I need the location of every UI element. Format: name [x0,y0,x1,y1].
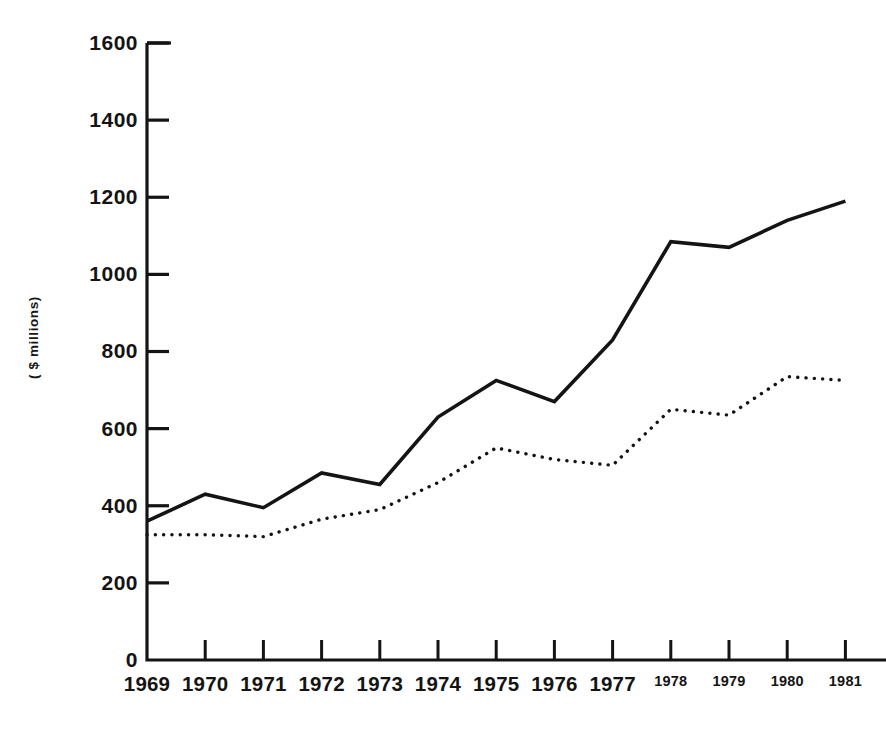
x-tick-label: 1979 [712,674,745,689]
x-tick-label: 1980 [771,674,804,689]
x-tick-label: 1976 [531,674,577,695]
x-axis-tick-labels: 1969197019711972197319741975197619771978… [0,0,886,731]
x-tick-label: 1972 [298,674,344,695]
x-tick-label: 1969 [124,674,170,695]
x-tick-label: 1977 [589,674,635,695]
x-tick-label: 1981 [829,674,862,689]
x-tick-label: 1975 [473,674,519,695]
x-tick-label: 1971 [240,674,286,695]
x-tick-label: 1973 [357,674,403,695]
x-tick-label: 1974 [415,674,461,695]
x-tick-label: 1970 [182,674,228,695]
chart-figure: ( $ millions) 1600 1400 1200 1000 800 60… [0,0,886,731]
x-tick-label: 1978 [654,674,687,689]
